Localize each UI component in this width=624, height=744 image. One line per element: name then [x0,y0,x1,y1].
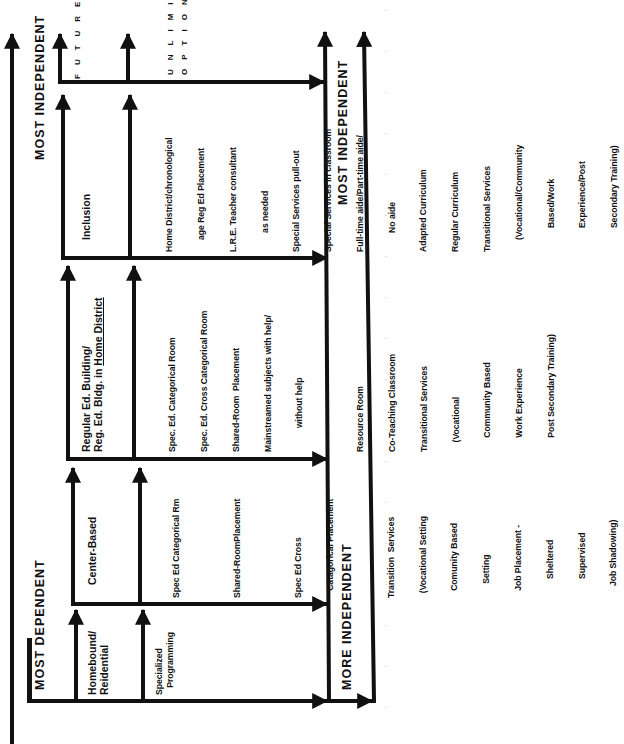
column-items-regular-ed: Spec. Ed. Categorical Room Spec. Ed. Cro… [146,311,567,452]
options-label: OPTIONS [180,0,189,75]
column-title-inclusion: Inclusion [80,194,92,240]
column-items-inclusion: Home District/chronological age Reg Ed P… [143,129,624,252]
column-title-center-based: Center-Based [86,517,98,585]
column-items-center-based: Spec Ed Categorical Rm Shared-RoomPlacem… [150,499,624,598]
column-items-homebound: Specialized Programming [154,632,175,695]
home-district-underlined: Home District [92,297,104,365]
future-label: FUTURE [73,0,82,79]
column-title-homebound: Homebound/ Reidential [86,631,110,695]
band-label-most-independent-left: MOST INDEPENDENT [33,15,47,160]
unlimited-label: UNLIMITED [166,0,175,75]
band-label-most-dependent: MOST DEPENDENT [33,559,47,690]
column-title-regular-ed: Regular Ed. Building/ Reg. Ed. Bldg. in … [80,297,104,452]
